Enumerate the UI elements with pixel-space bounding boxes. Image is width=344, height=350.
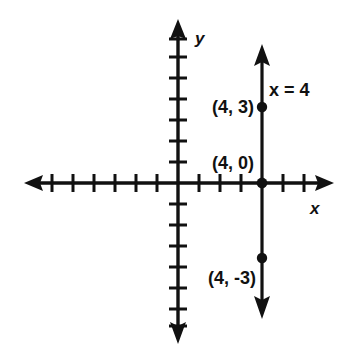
point-dot-4-0 <box>257 178 268 189</box>
point-label-4-0: (4, 0) <box>212 154 254 172</box>
y-axis-up-arrow-icon <box>170 19 186 39</box>
y-axis-label: y <box>195 30 204 47</box>
line-equation-label: x = 4 <box>269 81 310 99</box>
point-dot-4-3 <box>257 102 267 112</box>
point-dot-4-minus-3 <box>257 253 267 263</box>
point-label-4-minus-3: (4, -3) <box>208 269 256 287</box>
coordinate-plane-graphic <box>0 0 344 350</box>
x-axis-label: x <box>310 200 319 217</box>
coordinate-plane-figure: y x x = 4 (4, 3) (4, 0) (4, -3) <box>0 0 344 350</box>
point-label-4-3: (4, 3) <box>212 98 254 116</box>
